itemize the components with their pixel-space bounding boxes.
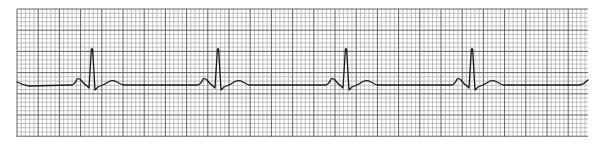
ecg-trace-line	[17, 49, 588, 90]
ecg-chart	[0, 0, 601, 147]
grid-major-lines	[17, 9, 588, 137]
ecg-strip: regular	[0, 0, 601, 147]
